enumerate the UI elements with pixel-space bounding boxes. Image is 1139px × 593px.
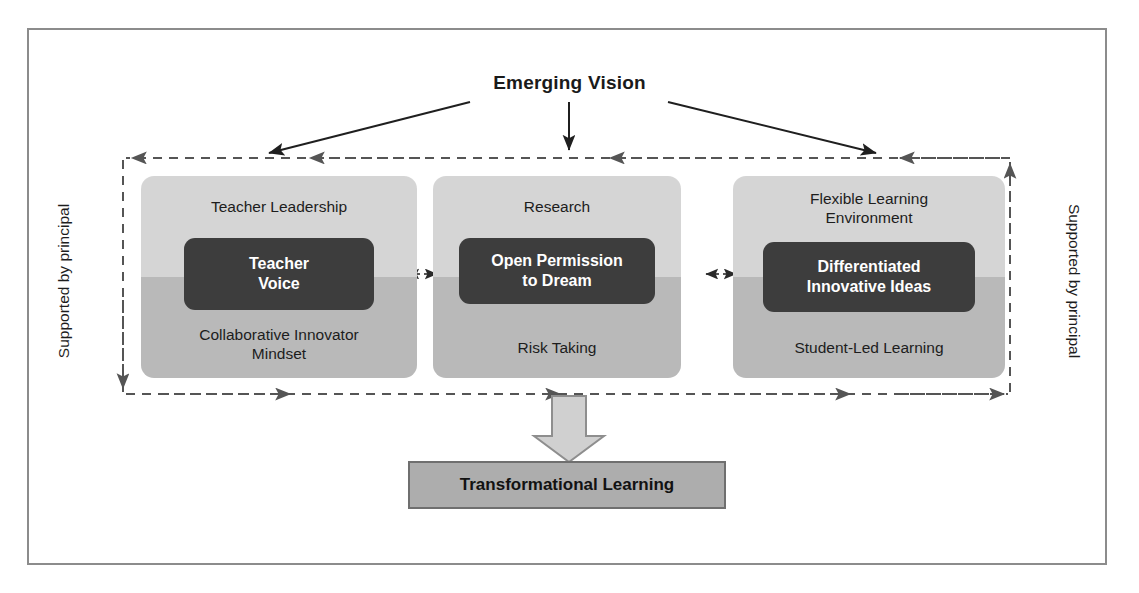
pillar-core-box[interactable]: Differentiated Innovative Ideas xyxy=(763,242,975,312)
pillar-top-label: Flexible Learning Environment xyxy=(733,190,1005,228)
side-label-right: Supported by principal xyxy=(1065,181,1083,381)
bottom-line-2: Mindset xyxy=(252,345,306,362)
pillar-flexible-learning-environment[interactable]: Flexible Learning Environment Differenti… xyxy=(733,176,1005,378)
outcome-box[interactable]: Transformational Learning xyxy=(408,461,726,509)
pillar-bottom-label: Risk Taking xyxy=(433,339,681,358)
core-line-1: Differentiated xyxy=(817,258,920,275)
pillar-core-box[interactable]: Teacher Voice xyxy=(184,238,374,310)
outcome-label: Transformational Learning xyxy=(460,475,674,495)
pillar-bottom-label: Student-Led Learning xyxy=(733,339,1005,358)
top-line-1: Flexible Learning xyxy=(810,190,928,207)
pillar-bottom-label: Collaborative Innovator Mindset xyxy=(141,326,417,364)
top-line-2: Environment xyxy=(825,209,912,226)
pillar-core-box[interactable]: Open Permission to Dream xyxy=(459,238,655,304)
core-line-2: Innovative Ideas xyxy=(807,278,932,295)
core-line-1: Open Permission xyxy=(491,252,623,269)
diagram-canvas: Emerging Vision xyxy=(0,0,1139,593)
page-title: Emerging Vision xyxy=(0,72,1139,94)
core-line-2: to Dream xyxy=(522,272,591,289)
bottom-line-1: Collaborative Innovator xyxy=(199,326,358,343)
core-line-2: Voice xyxy=(258,275,300,292)
pillar-teacher-leadership[interactable]: Teacher Leadership Teacher Voice Collabo… xyxy=(141,176,417,378)
pillar-top-label: Teacher Leadership xyxy=(141,198,417,217)
side-label-left: Supported by principal xyxy=(55,181,73,381)
pillar-research[interactable]: Research Open Permission to Dream Risk T… xyxy=(433,176,681,378)
pillar-top-label: Research xyxy=(433,198,681,217)
core-line-1: Teacher xyxy=(249,255,309,272)
